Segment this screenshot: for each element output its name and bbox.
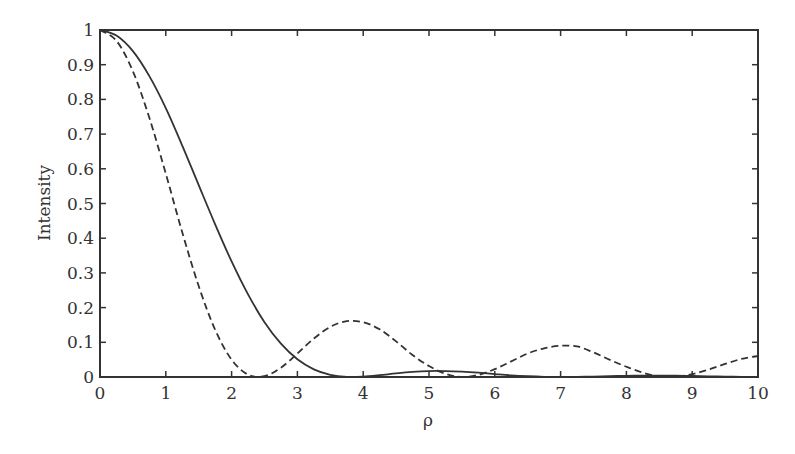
x-tick-label: 10: [747, 383, 769, 403]
x-tick-label: 6: [489, 383, 500, 403]
y-tick-label: 0.2: [67, 298, 94, 318]
x-tick-label: 0: [95, 383, 106, 403]
x-tick-label: 2: [226, 383, 237, 403]
x-tick-label: 3: [292, 383, 303, 403]
plot-frame: [100, 30, 758, 377]
solid-series-line: [100, 30, 758, 377]
x-tick-label: 7: [555, 383, 566, 403]
line-chart: 012345678910 00.10.20.30.40.50.60.70.80.…: [0, 0, 795, 454]
x-tick-label: 1: [160, 383, 171, 403]
x-axis-label: ρ: [423, 410, 433, 430]
y-tick-label: 0.9: [67, 55, 94, 75]
plot-border: [100, 30, 758, 377]
y-tick-label: 0: [83, 367, 94, 387]
y-tick-label: 0.4: [67, 228, 94, 248]
y-tick-label: 1: [83, 20, 94, 40]
y-tick-label: 0.1: [67, 332, 94, 352]
y-tick-label: 0.8: [67, 89, 94, 109]
x-tick-label: 5: [424, 383, 435, 403]
dashed-series-line: [100, 30, 758, 377]
y-tick-label: 0.6: [67, 159, 94, 179]
x-axis: 012345678910: [95, 30, 769, 403]
y-axis-label: Intensity: [34, 165, 54, 241]
x-tick-label: 4: [358, 383, 369, 403]
y-tick-label: 0.3: [67, 263, 94, 283]
x-tick-label: 9: [687, 383, 698, 403]
y-tick-label: 0.5: [67, 194, 94, 214]
series-layer: [100, 30, 758, 377]
y-tick-label: 0.7: [67, 124, 94, 144]
y-axis: 00.10.20.30.40.50.60.70.80.91: [67, 20, 758, 387]
x-tick-label: 8: [621, 383, 632, 403]
